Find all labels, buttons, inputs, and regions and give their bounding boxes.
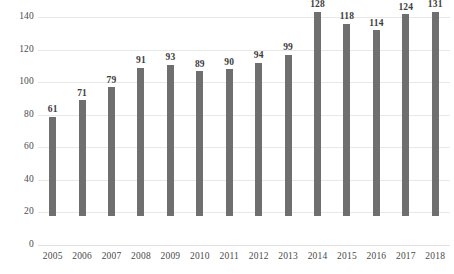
x-axis-tick-label: 2017 bbox=[391, 252, 420, 262]
bar-item[interactable]: 61 bbox=[38, 0, 67, 216]
bar-value-label: 128 bbox=[310, 0, 325, 10]
bar-value-label: 91 bbox=[136, 56, 146, 66]
bar-rect[interactable] bbox=[402, 14, 409, 216]
bar-item[interactable]: 89 bbox=[185, 0, 214, 216]
bar-rect[interactable] bbox=[167, 65, 174, 216]
bar-value-label: 90 bbox=[224, 58, 234, 68]
y-axis-tick-label: 140 bbox=[0, 12, 34, 22]
bar-chart: 140 120 100 80 60 40 20 0 61717991938990… bbox=[0, 0, 454, 274]
bar-value-label: 114 bbox=[369, 19, 383, 29]
bar-item[interactable]: 71 bbox=[67, 0, 96, 216]
bar-value-label: 94 bbox=[254, 51, 264, 61]
x-axis-tick-label: 2008 bbox=[126, 252, 155, 262]
bar-series: 617179919389909499128118114124131 bbox=[38, 0, 450, 245]
x-axis-tick-label: 2016 bbox=[362, 252, 391, 262]
bar-value-label: 118 bbox=[340, 12, 354, 22]
x-axis-tick-label: 2007 bbox=[97, 252, 126, 262]
bar-item[interactable]: 91 bbox=[126, 0, 155, 216]
x-axis: 2005200620072008200920102011201220132014… bbox=[38, 252, 450, 266]
bar-value-label: 79 bbox=[107, 76, 117, 86]
y-axis-tick-label: 80 bbox=[0, 110, 34, 120]
x-axis-tick-label: 2005 bbox=[38, 252, 67, 262]
bar-rect[interactable] bbox=[137, 68, 144, 216]
y-axis-tick-label: 20 bbox=[0, 208, 34, 218]
bar-value-label: 93 bbox=[165, 53, 175, 63]
bar-value-label: 89 bbox=[195, 60, 205, 70]
bar-rect[interactable] bbox=[49, 117, 56, 216]
bar-rect[interactable] bbox=[285, 55, 292, 216]
bar-item[interactable]: 131 bbox=[421, 0, 450, 216]
x-axis-tick-label: 2006 bbox=[67, 252, 96, 262]
bar-rect[interactable] bbox=[373, 30, 380, 216]
bar-item[interactable]: 118 bbox=[332, 0, 361, 216]
bar-item[interactable]: 93 bbox=[156, 0, 185, 216]
bar-value-label: 61 bbox=[48, 105, 58, 115]
bar-item[interactable]: 99 bbox=[273, 0, 302, 216]
bar-rect[interactable] bbox=[196, 71, 203, 216]
x-axis-tick-label: 2011 bbox=[215, 252, 244, 262]
x-axis-tick-label: 2015 bbox=[332, 252, 361, 262]
x-axis-tick-label: 2012 bbox=[244, 252, 273, 262]
y-axis-tick-label: 100 bbox=[0, 77, 34, 87]
bar-rect[interactable] bbox=[108, 87, 115, 216]
bar-item[interactable]: 128 bbox=[303, 0, 332, 216]
x-axis-tick-label: 2014 bbox=[303, 252, 332, 262]
bar-item[interactable]: 114 bbox=[362, 0, 391, 216]
bar-value-label: 131 bbox=[428, 0, 443, 10]
y-axis-tick-label: 0 bbox=[0, 240, 34, 250]
bar-item[interactable]: 90 bbox=[215, 0, 244, 216]
gridline-0-baseline bbox=[38, 245, 450, 246]
bar-value-label: 124 bbox=[398, 3, 413, 13]
x-axis-tick-label: 2013 bbox=[273, 252, 302, 262]
y-axis: 140 120 100 80 60 40 20 0 bbox=[0, 17, 34, 245]
bar-rect[interactable] bbox=[432, 12, 439, 217]
bar-rect[interactable] bbox=[79, 100, 86, 216]
bar-rect[interactable] bbox=[226, 69, 233, 216]
bar-rect[interactable] bbox=[255, 63, 262, 216]
bar-item[interactable]: 79 bbox=[97, 0, 126, 216]
bar-value-label: 71 bbox=[77, 89, 87, 99]
bar-rect[interactable] bbox=[314, 12, 321, 217]
x-axis-tick-label: 2018 bbox=[421, 252, 450, 262]
bar-item[interactable]: 94 bbox=[244, 0, 273, 216]
x-axis-tick-label: 2010 bbox=[185, 252, 214, 262]
x-axis-tick-label: 2009 bbox=[156, 252, 185, 262]
bar-rect[interactable] bbox=[343, 24, 350, 216]
y-axis-tick-label: 120 bbox=[0, 45, 34, 55]
bar-item[interactable]: 124 bbox=[391, 0, 420, 216]
y-axis-tick-label: 60 bbox=[0, 143, 34, 153]
y-axis-tick-label: 40 bbox=[0, 175, 34, 185]
bar-value-label: 99 bbox=[283, 43, 293, 53]
